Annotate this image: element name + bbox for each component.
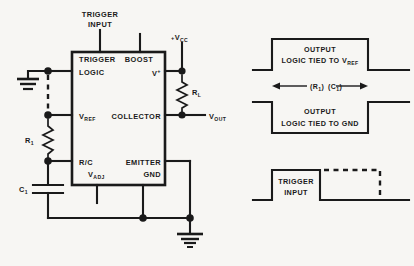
circuit-diagram: TRIGGER LOGIC BOOST V+ VREF COLLECTOR R/… <box>0 0 414 266</box>
pin-label-logic: LOGIC <box>79 68 105 77</box>
pin-label-vplus: V+ <box>152 68 161 78</box>
waveform-label-output-gnd-line2: LOGIC TIED TO GND <box>281 119 359 128</box>
timing-annotation: (R1) (C1) <box>272 83 368 93</box>
pin-label-gnd: GND <box>143 170 161 179</box>
ground-symbol-left <box>17 79 39 89</box>
label-r1: R1 <box>25 136 34 146</box>
waveform-label-trigger-line2: INPUT <box>284 188 308 197</box>
waveform-label-output-vref-line2: LOGIC TIED TO VREF <box>281 56 358 66</box>
junction-dot-vref <box>44 111 52 119</box>
timing-label-r1: (R1) <box>310 83 324 92</box>
waveform-trigger-input-dashed-extension <box>324 170 380 200</box>
pin-label-boost: BOOST <box>125 55 153 64</box>
waveform-label-output-vref-line1: OUTPUT <box>304 45 336 54</box>
waveform-label-trigger-line1: TRIGGER <box>278 177 314 186</box>
ground-symbol-bottom <box>177 234 203 247</box>
label-trigger-input-line1: TRIGGER <box>82 10 119 19</box>
label-rl: RL <box>192 88 201 98</box>
resistor-rl <box>177 75 187 115</box>
pin-label-collector: COLLECTOR <box>112 112 162 121</box>
timing-label-c1: (C1) <box>328 83 342 92</box>
resistor-r1 <box>43 119 53 161</box>
left-ground-lead <box>28 71 48 78</box>
pin-label-trigger: TRIGGER <box>79 55 116 64</box>
pin-label-emitter: EMITTER <box>126 158 161 167</box>
junction-dot-vplus <box>178 67 185 74</box>
waveform-trigger-input <box>253 170 409 200</box>
label-vout: VOUT <box>209 112 227 122</box>
pin-label-vref: VREF <box>79 112 96 122</box>
waveform-label-output-gnd-line1: OUTPUT <box>304 107 336 116</box>
label-vcc: +VCC <box>171 33 188 43</box>
label-c1: C1 <box>19 185 28 195</box>
label-trigger-input-line2: INPUT <box>88 20 112 29</box>
waveform-output-vref <box>253 39 409 70</box>
pin-label-vadj: VADJ <box>88 170 105 180</box>
schematic-page: TRIGGER LOGIC BOOST V+ VREF COLLECTOR R/… <box>0 0 414 266</box>
pin-label-rc: R/C <box>79 158 93 167</box>
